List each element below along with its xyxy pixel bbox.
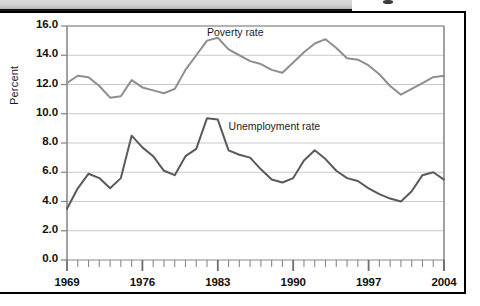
chart-surface: Percent 16.014.012.010.08.06.04.02.00.0 …: [0, 13, 464, 292]
cropped-header-strip: [0, 0, 480, 11]
chart-plot-area: [0, 13, 466, 294]
header-gray-band: [0, 0, 352, 11]
figure-frame: Percent 16.014.012.010.08.06.04.02.00.0 …: [0, 11, 466, 294]
series-label-unemployment: Unemployment rate: [229, 120, 321, 132]
series-label-poverty: Poverty rate: [207, 26, 264, 38]
series-line-poverty-rate: [67, 38, 444, 98]
cropped-title-glyph: [383, 0, 393, 4]
page-root: Percent 16.014.012.010.08.06.04.02.00.0 …: [0, 0, 480, 306]
